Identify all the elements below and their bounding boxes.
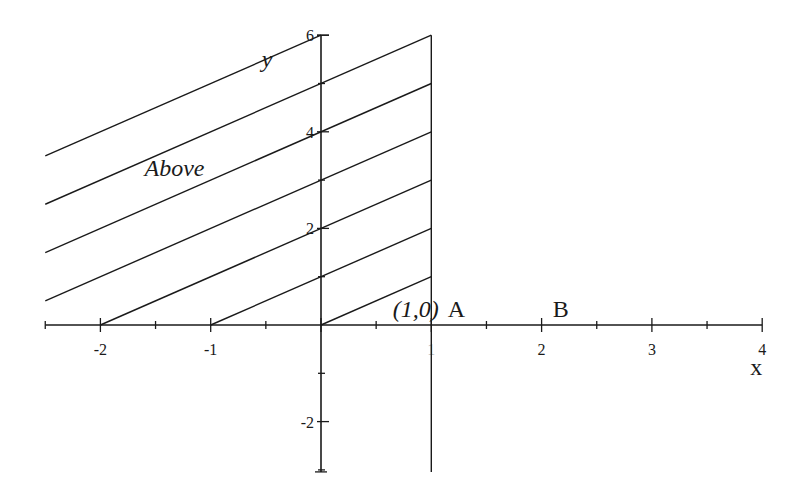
x-tick-label: 1 [427,341,435,358]
boundary-line-5 [45,35,431,204]
x-tick-label: 2 [538,341,546,358]
y-tick-label: 4 [306,124,314,141]
point-label-1-0: (1,0) [393,296,439,322]
boundary-line-4 [45,84,431,253]
y-tick-label: 6 [306,27,314,44]
region-label-above: Above [143,155,205,181]
y-axis-label: y [260,46,273,72]
boundary-line-6 [45,35,321,156]
x-tick-label: -2 [94,341,107,358]
point-label-a: A [448,296,466,322]
boundary-line-2 [100,180,431,325]
boundary-line-3 [45,132,431,301]
y-tick-label: 2 [306,220,314,237]
y-tick-label: -2 [301,414,314,431]
x-tick-label: -1 [204,341,217,358]
x-tick-label: 3 [648,341,656,358]
x-axis-label: x [750,354,762,380]
point-label-b: B [553,296,569,322]
diagram-plot: -2-11234-2246xyAbove(1,0)AB [0,0,808,501]
